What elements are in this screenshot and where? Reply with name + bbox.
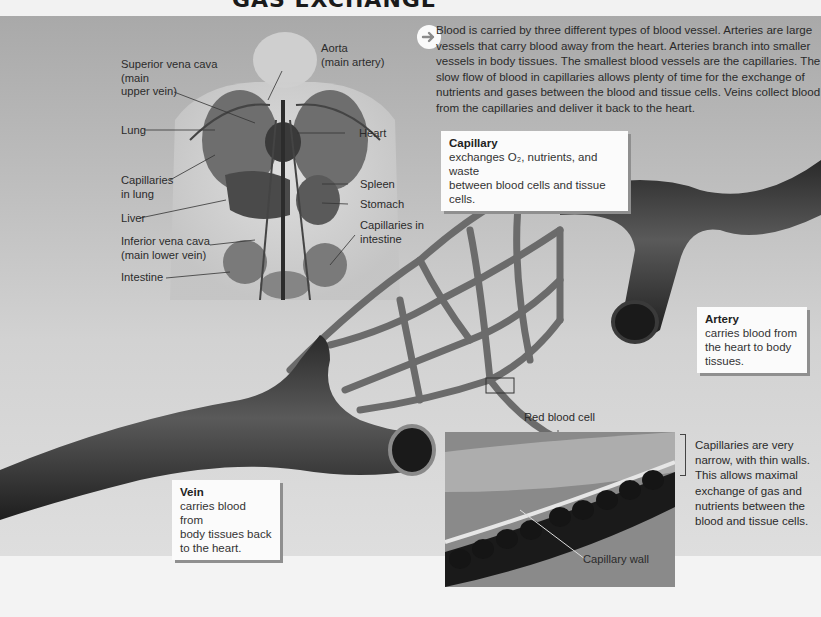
callout-text: the heart to body [705, 340, 799, 354]
label-stomach: Stomach [360, 198, 404, 212]
callout-capillary: Capillary exchanges O₂, nutrients, and w… [441, 131, 628, 211]
label-aorta: Aorta (main artery) [321, 42, 384, 69]
label-intestine: Intestine [121, 271, 163, 285]
label-liver: Liver [121, 212, 145, 226]
intro-paragraph: Blood is carried by three different type… [436, 22, 821, 115]
callout-title: Vein [180, 485, 272, 499]
capillary-side-note: Capillaries are very narrow, with thin w… [695, 438, 821, 529]
label-line: (main lower vein) [121, 249, 210, 263]
label-line: in lung [121, 188, 173, 202]
callout-title: Artery [705, 312, 799, 326]
label-line: (main artery) [321, 56, 384, 70]
label-inferior-vena-cava: Inferior vena cava (main lower vein) [121, 235, 210, 262]
bracket-indicator [680, 434, 686, 476]
callout-text: carries blood from [180, 499, 272, 527]
callout-text: tissues. [705, 354, 799, 368]
label-capillary-wall: Capillary wall [583, 553, 649, 567]
label-line: Inferior vena cava [121, 235, 210, 249]
label-line: Capillaries [121, 174, 173, 188]
label-line: (main [121, 72, 217, 86]
callout-text: between blood cells and tissue cells. [449, 178, 620, 206]
callout-text: to the heart. [180, 541, 272, 555]
label-superior-vena-cava: Superior vena cava (main upper vein) [121, 58, 217, 99]
callout-vein: Vein carries blood from body tissues bac… [172, 480, 280, 560]
callout-title: Capillary [449, 136, 620, 150]
label-heart: Heart [359, 127, 386, 141]
label-line: Capillaries in [360, 219, 424, 233]
label-line: intestine [360, 233, 424, 247]
callout-artery: Artery carries blood from the heart to b… [697, 307, 807, 373]
callout-text: body tissues back [180, 527, 272, 541]
label-red-blood-cell: Red blood cell [524, 411, 595, 425]
label-capillaries-in-lung: Capillaries in lung [121, 174, 173, 201]
callout-text: carries blood from [705, 326, 799, 340]
label-spleen: Spleen [360, 178, 395, 192]
label-line: Aorta [321, 42, 384, 56]
label-lung: Lung [121, 124, 146, 138]
label-line: Superior vena cava [121, 58, 217, 72]
label-capillaries-in-intestine: Capillaries in intestine [360, 219, 424, 246]
callout-text: exchanges O₂, nutrients, and waste [449, 150, 620, 178]
label-line: upper vein) [121, 85, 217, 99]
